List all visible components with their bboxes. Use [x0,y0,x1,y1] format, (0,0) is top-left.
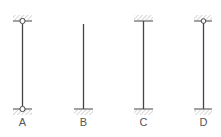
pin-icon-top-a [20,18,25,23]
column-d [194,15,212,115]
column-support-diagram [0,0,221,137]
hatch-bottom-b [74,110,93,115]
column-c [134,15,153,115]
hatch-top-c [134,15,153,20]
column-b [74,24,93,115]
hatch-bottom-d [194,110,212,115]
pin-icon-top-d [201,19,206,24]
column-a [13,15,32,115]
hatch-bottom-c [134,110,153,115]
column-label-d: D [194,116,214,128]
pin-icon-bottom-a [20,106,25,111]
column-label-a: A [13,116,33,128]
column-label-b: B [74,116,94,128]
column-label-c: C [134,116,154,128]
